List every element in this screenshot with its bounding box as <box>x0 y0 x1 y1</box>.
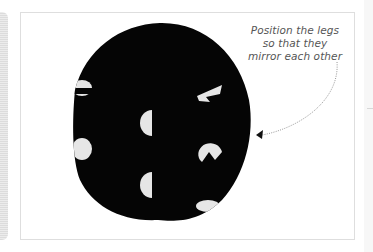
annotation-line-2: so that they <box>242 37 348 50</box>
dotted-arrow <box>256 62 337 139</box>
fabric-circle <box>70 23 251 221</box>
handwritten-annotation: Position the legs so that they mirror ea… <box>242 24 348 63</box>
arrowhead-icon <box>256 130 263 139</box>
annotation-line-1: Position the legs <box>242 24 348 37</box>
annotation-line-3: mirror each other <box>242 50 348 63</box>
